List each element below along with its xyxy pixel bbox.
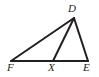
geometry-figure: D F X E — [0, 0, 99, 77]
segment-d-e — [74, 18, 88, 61]
vertex-label-e: E — [83, 62, 90, 73]
vertex-label-d: D — [68, 3, 76, 14]
vertex-label-x: X — [48, 62, 55, 73]
vertex-label-f: F — [7, 62, 14, 73]
